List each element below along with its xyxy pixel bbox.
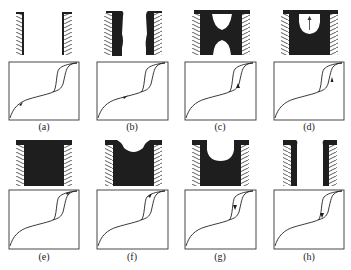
panel-e: (e) — [9, 140, 79, 263]
arrow-icon — [233, 205, 237, 210]
panel-label-b: (b) — [126, 121, 138, 133]
arrow-icon — [123, 96, 128, 100]
pore-a — [16, 12, 72, 55]
pore-b — [104, 11, 162, 56]
isotherm-e — [9, 190, 79, 249]
panel-f: (f) — [97, 139, 168, 263]
panel-c: (c) — [185, 10, 256, 133]
pore-g — [192, 139, 249, 186]
isotherm-f — [97, 190, 168, 249]
isotherm-h — [274, 190, 344, 249]
pore-h — [283, 140, 337, 186]
pore-e — [16, 140, 72, 186]
panel-label-d: (d) — [303, 121, 315, 133]
panel-label-f: (f) — [127, 251, 137, 263]
isotherm-a — [9, 62, 79, 120]
arrow-icon — [148, 194, 152, 199]
panel-g: (g) — [185, 139, 256, 263]
pore-d — [281, 10, 338, 55]
pore-c — [192, 10, 250, 55]
arrow-icon — [331, 77, 334, 82]
panel-label-c: (c) — [214, 121, 225, 133]
figure-canvas: (a) (b) (c) — [0, 0, 351, 270]
panel-label-h: (h) — [303, 251, 315, 263]
panel-h: (h) — [274, 140, 344, 263]
panel-label-a: (a) — [38, 121, 49, 133]
isotherm-c — [185, 62, 256, 120]
pore-f — [105, 139, 162, 186]
isotherm-d — [274, 62, 344, 120]
panel-label-g: (g) — [214, 251, 226, 263]
panel-label-e: (e) — [38, 251, 49, 263]
panel-d: (d) — [274, 10, 344, 133]
isotherm-g — [185, 190, 256, 249]
isotherm-b — [97, 62, 168, 120]
panel-b: (b) — [97, 11, 168, 133]
panel-a: (a) — [9, 12, 79, 133]
